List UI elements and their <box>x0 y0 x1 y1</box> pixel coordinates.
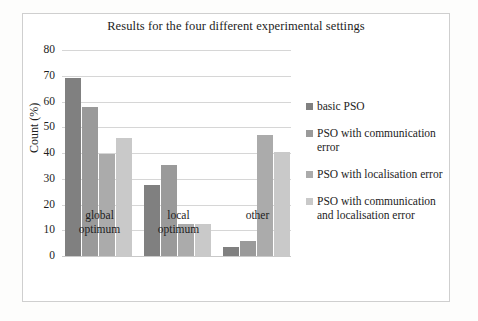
chart-legend: basic PSOPSO with communication errorPSO… <box>306 99 446 235</box>
legend-item-label: PSO with communication error <box>317 126 446 154</box>
legend-swatch-icon <box>306 198 313 205</box>
legend-item: PSO with communication error <box>306 126 446 154</box>
y-axis-tick-label: 20 <box>44 199 56 211</box>
y-axis-tick-label: 30 <box>44 173 56 185</box>
legend-item: basic PSO <box>306 99 446 113</box>
y-axis-tick-label: 70 <box>44 70 56 82</box>
legend-swatch-icon <box>306 130 313 137</box>
gridline <box>62 256 291 257</box>
legend-item-label: PSO with localisation error <box>317 167 443 181</box>
legend-item-label: PSO with communication and localisation … <box>317 194 446 222</box>
x-axis-category-label: global optimum <box>57 209 142 236</box>
y-axis-tick-label: 80 <box>44 44 56 56</box>
y-axis-tick-label: 50 <box>44 122 56 134</box>
bar <box>99 154 115 256</box>
bar-group <box>223 50 292 256</box>
chart-title: Results for the four different experimen… <box>22 19 450 34</box>
y-axis-tick-label: 40 <box>44 147 56 159</box>
bar <box>116 138 132 256</box>
legend-item: PSO with communication and localisation … <box>306 194 446 222</box>
figure-container: Results for the four different experimen… <box>0 0 478 321</box>
bar <box>223 247 239 256</box>
y-axis-tick-label: 0 <box>49 250 55 262</box>
y-axis-tick-label: 10 <box>44 225 56 237</box>
legend-item: PSO with localisation error <box>306 167 446 181</box>
y-axis-tick-label: 60 <box>44 96 56 108</box>
bar <box>274 152 290 256</box>
bar <box>257 135 273 256</box>
y-axis-title: Count (%) <box>27 103 42 153</box>
legend-swatch-icon <box>306 171 313 178</box>
x-axis-category-label: other <box>215 209 300 223</box>
legend-swatch-icon <box>306 103 313 110</box>
x-axis-category-label: local optimum <box>136 209 221 236</box>
bar <box>240 241 256 256</box>
legend-item-label: basic PSO <box>317 99 365 113</box>
